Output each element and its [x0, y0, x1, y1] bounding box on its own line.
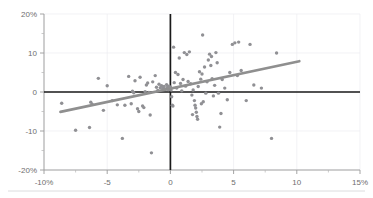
- scatter-point: [151, 80, 154, 83]
- scatter-point: [181, 78, 184, 81]
- x-tick-label: -5: [104, 178, 112, 187]
- scatter-point: [248, 43, 251, 46]
- scatter-point: [203, 65, 206, 68]
- scatter-point: [219, 112, 222, 115]
- scatter-point: [223, 86, 226, 89]
- scatter-point: [193, 99, 196, 102]
- scatter-point: [199, 77, 202, 80]
- scatter-point: [207, 58, 210, 61]
- scatter-point: [148, 113, 151, 116]
- scatter-point: [180, 89, 183, 92]
- scatter-point: [270, 137, 273, 140]
- scatter-point: [102, 109, 105, 112]
- scatter-point: [217, 91, 220, 94]
- x-tick-label: 0: [168, 178, 173, 187]
- scatter-point: [150, 151, 153, 154]
- scatter-point: [132, 91, 135, 94]
- scatter-point: [74, 129, 77, 132]
- x-tick-label: 5: [231, 178, 236, 187]
- scatter-point: [201, 33, 204, 36]
- scatter-point: [171, 104, 174, 107]
- scatter-point: [172, 45, 175, 48]
- scatter-point: [210, 55, 213, 58]
- scatter-chart: 20%100-10-20%-10%-5051015%: [0, 0, 373, 198]
- scatter-point: [197, 85, 200, 88]
- trend-line: [60, 61, 299, 112]
- scatter-point: [106, 84, 109, 87]
- scatter-point: [172, 81, 175, 84]
- scatter-point: [154, 74, 157, 77]
- scatter-point: [185, 53, 188, 56]
- scatter-point: [137, 110, 140, 113]
- scatter-point: [127, 75, 130, 78]
- scatter-point: [214, 51, 217, 54]
- scatter-point: [275, 51, 278, 54]
- scatter-point: [97, 77, 100, 80]
- scatter-point: [170, 95, 173, 98]
- scatter-point: [212, 94, 215, 97]
- scatter-point: [237, 40, 240, 43]
- scatter-point: [239, 69, 242, 72]
- scatter-point: [245, 99, 248, 102]
- scatter-point: [146, 81, 149, 84]
- scatter-point: [142, 106, 145, 109]
- x-tick-label: 15%: [352, 178, 368, 187]
- scatter-point: [176, 73, 179, 76]
- scatter-point: [130, 102, 133, 105]
- scatter-point: [179, 82, 182, 85]
- scatter-point: [116, 103, 119, 106]
- y-tick-label: 10: [28, 49, 37, 58]
- scatter-point: [228, 71, 231, 74]
- x-tick-label: 10: [292, 178, 301, 187]
- scatter-point: [204, 91, 207, 94]
- scatter-point: [191, 113, 194, 116]
- y-tick-label: 0: [33, 88, 38, 97]
- scatter-point: [200, 102, 203, 105]
- scatter-point: [188, 50, 191, 53]
- scatter-point: [213, 84, 216, 87]
- chart-canvas: 20%100-10-20%-10%-5051015%: [0, 0, 373, 198]
- y-tick-label: -10: [25, 127, 37, 136]
- scatter-point: [121, 137, 124, 140]
- scatter-point: [233, 41, 236, 44]
- scatter-point: [215, 61, 218, 64]
- scatter-point: [191, 88, 194, 91]
- scatter-point: [218, 125, 221, 128]
- scatter-point: [123, 104, 126, 107]
- scatter-point: [252, 83, 255, 86]
- scatter-point: [198, 70, 201, 73]
- x-tick-label: -10%: [35, 178, 54, 187]
- scatter-point: [190, 93, 193, 96]
- scatter-point: [186, 80, 189, 83]
- scatter-point: [226, 98, 229, 101]
- scatter-point: [200, 72, 203, 75]
- scatter-point: [88, 126, 91, 129]
- scatter-point: [209, 64, 212, 67]
- scatter-point: [138, 75, 141, 78]
- y-tick-label: -20%: [18, 166, 37, 175]
- scatter-point: [133, 79, 136, 82]
- scatter-point: [260, 86, 263, 89]
- scatter-point: [60, 102, 63, 105]
- scatter-point: [194, 106, 197, 109]
- scatter-point: [178, 56, 181, 59]
- scatter-point: [196, 118, 199, 121]
- scatter-point: [155, 86, 158, 89]
- y-tick-label: 20%: [21, 10, 37, 19]
- scatter-point: [195, 111, 198, 114]
